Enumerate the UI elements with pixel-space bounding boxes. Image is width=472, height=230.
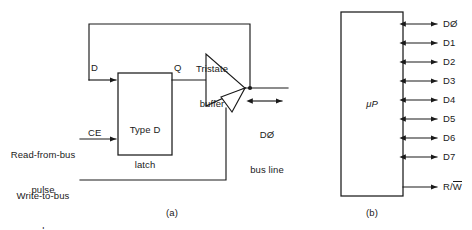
tristate-buffer-label: Tristate buffer: [186, 40, 238, 132]
bus-line-label-line1: DØ: [237, 129, 297, 141]
pin-label-d3: D3: [443, 75, 455, 87]
write-to-bus-pulse-line1: Write-to-bus: [8, 190, 78, 202]
bus-junction-dot: [248, 86, 252, 90]
bus-output-wire: [245, 86, 288, 90]
bus-line-label-line2: bus line: [237, 164, 297, 176]
pin-label-d0: DØ: [443, 18, 457, 30]
bus-line-label: DØ bus line: [237, 106, 297, 198]
pin-label-d4: D4: [443, 94, 455, 106]
read-from-bus-pulse-line1: Read-from-bus: [8, 149, 78, 161]
tristate-buffer-label-line1: Tristate: [186, 63, 238, 75]
latch-q-output-label: Q: [174, 62, 182, 74]
write-to-bus-pulse-label: Write-to-bus pulse: [8, 167, 78, 229]
pin-label-rw-prefix: R/: [443, 181, 453, 192]
pin-label-d1: D1: [443, 37, 455, 49]
pin-label-d5: D5: [443, 113, 455, 125]
type-d-latch-label-line2: latch: [119, 159, 171, 171]
figure-root: Tristate buffer D Q Type D latch CE Read…: [0, 0, 472, 229]
pin-label-d2: D2: [443, 56, 455, 68]
type-d-latch-label: Type D latch: [119, 101, 171, 193]
pin-label-d7: D7: [443, 151, 455, 163]
latch-ce-input-label: CE: [88, 127, 101, 139]
pin-label-d6: D6: [443, 132, 455, 144]
tristate-buffer-label-line2: buffer: [186, 98, 238, 110]
type-d-latch-label-line1: Type D: [119, 124, 171, 136]
pin-label-rw: R/W: [443, 181, 462, 193]
latch-d-input-label: D: [91, 62, 98, 74]
panel-b-caption: (b): [356, 207, 388, 219]
pin-label-rw-overlined: W: [453, 181, 462, 192]
data-pin-arrows: [403, 24, 437, 187]
write-to-bus-pulse-line2: pulse: [8, 225, 78, 230]
panel-a-caption: (a): [156, 207, 188, 219]
microprocessor-label: μP: [352, 98, 392, 110]
